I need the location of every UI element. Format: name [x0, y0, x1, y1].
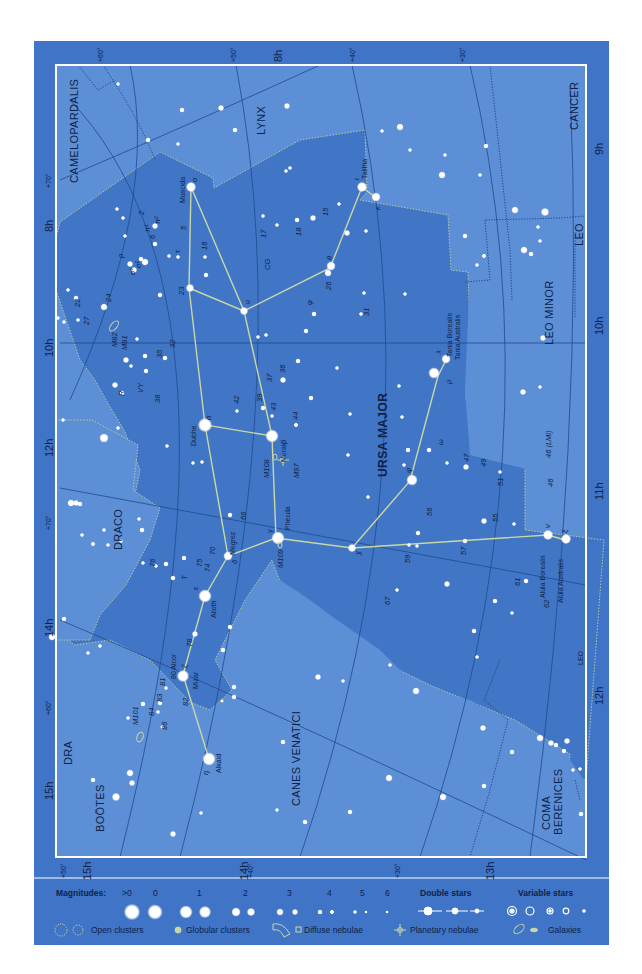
- name-megrez: Megrez: [229, 531, 237, 555]
- svg-text:43: 43: [269, 402, 278, 411]
- svg-text:VY: VY: [136, 382, 145, 393]
- svg-text:3: 3: [287, 888, 292, 898]
- name-mizar: Mizar: [192, 671, 199, 689]
- label-leo-minor: LEO MINOR: [543, 281, 555, 345]
- svg-text:M109: M109: [276, 548, 285, 568]
- svg-text:5: 5: [360, 888, 365, 898]
- svg-text:18: 18: [294, 227, 303, 236]
- svg-text:38: 38: [153, 394, 162, 403]
- svg-text:15: 15: [321, 207, 330, 216]
- name-dubhe: Dubhe: [190, 425, 197, 446]
- svg-text:μ: μ: [444, 380, 453, 385]
- tick-left-10h: 10h: [43, 339, 55, 357]
- svg-text:σ²: σ²: [134, 260, 143, 268]
- name-muscida: Muscida: [179, 177, 186, 203]
- legend-planetary-nebulae: Planetary nebulae: [410, 925, 479, 935]
- star-talitha: [357, 182, 367, 192]
- name-alula-australis: Alula Australis: [557, 559, 564, 603]
- svg-text:70: 70: [208, 546, 217, 555]
- tick-top-50: +50°: [230, 47, 237, 62]
- svg-text:76: 76: [148, 558, 157, 567]
- svg-text:υ: υ: [243, 300, 252, 304]
- name-merak: Merak: [280, 442, 287, 462]
- svg-text:57: 57: [459, 546, 468, 555]
- tick-bottom-30: +30°: [394, 863, 401, 878]
- svg-text:>0: >0: [122, 888, 132, 898]
- tick-bottom-40: +40°: [247, 863, 254, 878]
- svg-text:ν: ν: [543, 524, 552, 528]
- tick-top-30: +30°: [459, 47, 466, 62]
- svg-text:η: η: [201, 771, 210, 775]
- svg-text:ο: ο: [190, 178, 199, 182]
- name-alkaid: Alkaid: [215, 754, 222, 773]
- svg-text:56: 56: [425, 507, 434, 516]
- star-alula-a: [561, 534, 571, 544]
- label-bootes: BOÖTES: [94, 784, 106, 832]
- name-tania-australis: Tania Australis: [454, 314, 461, 360]
- svg-text:2: 2: [137, 210, 146, 216]
- star-mizar: [177, 670, 189, 682]
- label-leo-bottom: LEO: [577, 650, 584, 665]
- legend-galaxies: Galaxies: [548, 925, 581, 935]
- svg-text:17: 17: [259, 229, 268, 238]
- svg-text:84: 84: [147, 708, 156, 716]
- globular-cluster-icon: [175, 927, 181, 933]
- svg-text:θ: θ: [325, 256, 334, 260]
- svg-text:61: 61: [513, 578, 522, 586]
- tick-left-14h: 14h: [43, 619, 55, 637]
- svg-text:4: 4: [327, 888, 332, 898]
- svg-text:λ: λ: [434, 350, 443, 355]
- svg-text:37: 37: [265, 373, 274, 382]
- tick-left-70b: +70°: [45, 515, 52, 530]
- svg-text:67: 67: [383, 596, 392, 605]
- tick-top-40: +40°: [349, 47, 356, 62]
- svg-text:CG: CG: [263, 259, 272, 270]
- svg-text:86: 86: [160, 721, 169, 730]
- svg-text:M108: M108: [262, 458, 271, 478]
- svg-text:42: 42: [232, 395, 241, 404]
- tick-left-12h: 12h: [43, 439, 55, 457]
- name-talitha: Talitha: [361, 159, 368, 179]
- tick-top-60: +60°: [97, 47, 104, 62]
- svg-text:78: 78: [185, 638, 194, 647]
- svg-text:44: 44: [291, 412, 300, 420]
- svg-text:π²: π²: [153, 216, 162, 224]
- svg-text:49: 49: [479, 458, 488, 467]
- tick-bottom-13h: 13h: [484, 862, 496, 880]
- label-camelopardalis: CAMELOPARDALIS: [68, 79, 80, 183]
- label-ursa-major: URSA MAJOR: [376, 393, 390, 477]
- svg-text:6: 6: [385, 888, 390, 898]
- label-berenices: BERENICES: [552, 769, 564, 835]
- svg-text:M101: M101: [131, 706, 140, 725]
- tick-right-9h: 9h: [593, 143, 605, 155]
- svg-text:35: 35: [155, 349, 164, 358]
- star-tania-a: [429, 368, 440, 379]
- star-theta: [327, 262, 336, 271]
- svg-text:φ: φ: [305, 300, 314, 305]
- tick-top-8h: 8h: [272, 50, 284, 62]
- svg-text:83: 83: [155, 693, 164, 702]
- svg-text:55: 55: [491, 513, 500, 522]
- svg-text:27: 27: [82, 316, 91, 326]
- svg-text:π¹: π¹: [143, 224, 152, 232]
- star-muscida: [186, 182, 196, 192]
- svg-text:81: 81: [158, 678, 167, 686]
- svg-text:M81: M81: [120, 335, 129, 350]
- svg-text:36: 36: [278, 364, 287, 373]
- label-coma: COMA: [540, 795, 552, 830]
- tick-right-10h: 10h: [593, 317, 605, 335]
- svg-text:χ: χ: [353, 550, 362, 556]
- tick-right-12h: 12h: [593, 687, 605, 705]
- name-alula-borealis: Alula Borealis: [539, 555, 546, 598]
- tick-bottom-15h: 15h: [81, 862, 93, 880]
- svg-text:16: 16: [200, 241, 209, 250]
- tick-right-11h: 11h: [593, 482, 605, 500]
- label-cancer: CANCER: [568, 82, 580, 130]
- svg-text:39: 39: [255, 393, 264, 402]
- star-kappa: [372, 193, 381, 202]
- svg-text:75: 75: [195, 558, 204, 567]
- star-merak: [266, 430, 279, 443]
- svg-text:ω: ω: [436, 439, 445, 445]
- svg-text:26: 26: [324, 281, 333, 291]
- tick-left-15h: 15h: [43, 782, 55, 800]
